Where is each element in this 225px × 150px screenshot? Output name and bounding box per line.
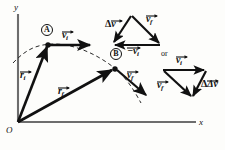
label-v-f-top-base: v xyxy=(146,13,150,24)
label-delta-v-top: Δ v xyxy=(105,19,116,29)
point-marker-B xyxy=(112,66,117,71)
label-delta-v-bottom: Δ Δv xyxy=(201,79,218,89)
triangle-top-group xyxy=(114,16,160,45)
y-axis-label: y xyxy=(14,3,18,12)
label-r-f-base: r xyxy=(58,85,62,96)
position-vector-r-i xyxy=(18,47,47,122)
point-label-A: A xyxy=(41,24,53,36)
point-label-B: B xyxy=(110,48,122,60)
triangle-bottom-group xyxy=(163,70,206,96)
label-delta-v-bottom-base: Δv xyxy=(207,78,218,89)
label-r-i-base: r xyxy=(20,69,24,80)
origin-label: O xyxy=(6,126,13,135)
label-v-i-bottom: v i xyxy=(176,55,182,67)
label-v-i-bottom-base: v xyxy=(176,54,180,65)
label-delta-v-top-base: v xyxy=(111,18,115,29)
label-neg-v-i-top: −v i xyxy=(127,46,139,58)
label-neg-v-i-top-base: −v xyxy=(127,45,138,56)
position-vector-r-f xyxy=(18,70,112,122)
label-v-i-at-A-base: v xyxy=(62,29,66,40)
point-marker-A xyxy=(45,42,50,47)
physics-vector-diagram: y x O A B r i r f v xyxy=(0,0,225,150)
label-v-f-at-B: v f xyxy=(127,70,133,82)
triangle-top-edge-delta-v xyxy=(114,16,131,42)
triangle-bottom-edge-v-f xyxy=(164,71,191,96)
label-r-i: r i xyxy=(20,70,25,82)
label-v-f-top: v f xyxy=(146,14,152,26)
point-label-A-text: A xyxy=(44,26,50,34)
point-label-B-text: B xyxy=(113,50,118,58)
label-v-i-at-A: v i xyxy=(62,30,68,42)
label-v-f-bottom-base: v xyxy=(157,79,161,90)
label-r-f: r f xyxy=(58,86,64,98)
label-v-f-bottom: v f xyxy=(157,80,163,92)
x-axis-label: x xyxy=(199,118,203,127)
label-v-f-at-B-base: v xyxy=(127,69,131,80)
or-connector-label: or xyxy=(161,50,168,58)
